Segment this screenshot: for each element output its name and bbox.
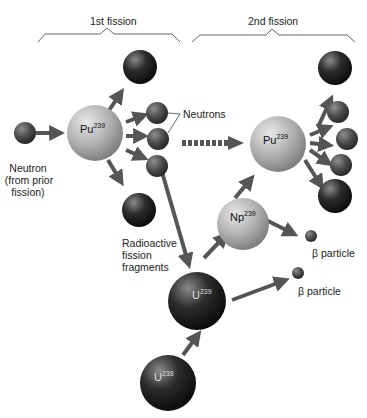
beta-particle-label-2: β particle — [298, 285, 341, 297]
label-line: Radioactive — [122, 237, 177, 249]
u239-symbol: U239 — [192, 288, 212, 301]
np239-symbol: Np239 — [230, 210, 256, 223]
element: Pu — [263, 134, 276, 146]
neutron-2-2 — [336, 128, 358, 150]
label-line: Neutron — [5, 162, 51, 174]
neutron-incoming — [14, 122, 36, 144]
neutrons-label: Neutrons — [183, 108, 226, 120]
pu239-symbol-1: Pu239 — [80, 122, 105, 135]
label-line: fragments — [122, 261, 177, 273]
first-fission-header: 1st fission — [90, 15, 137, 27]
neutron-incoming-label: Neutron (from prior fission) — [5, 162, 51, 198]
pu239-symbol-2: Pu239 — [263, 133, 288, 146]
fission-fragments-label: Radioactive fission fragments — [122, 237, 177, 273]
element: U — [154, 371, 162, 383]
neutrons-leader — [168, 113, 180, 133]
second-fission-header: 2nd fission — [248, 15, 298, 27]
bracket-1st — [38, 28, 180, 42]
bracket-2nd — [192, 29, 355, 42]
u238-symbol: U238 — [154, 370, 174, 383]
fission-fragment-bottom — [122, 193, 156, 227]
element: U — [192, 289, 200, 301]
beta-particle-2 — [292, 267, 304, 279]
mass-number: 238 — [162, 370, 174, 377]
mass-number: 239 — [93, 122, 105, 129]
beta-particle-1 — [305, 230, 317, 242]
fission-fragment-bottom-2 — [318, 179, 352, 213]
neutron-1 — [146, 102, 168, 124]
beta-particle-label-1: β particle — [312, 247, 355, 259]
u238-nucleus — [140, 355, 196, 411]
fission-fragment-top — [123, 50, 157, 84]
label-line: fission — [122, 249, 177, 261]
label-line: fission) — [5, 186, 51, 198]
mass-number: 239 — [244, 210, 256, 217]
mass-number: 239 — [200, 288, 212, 295]
neutron-3 — [146, 155, 168, 177]
mass-number: 239 — [276, 133, 288, 140]
fission-diagram — [0, 0, 367, 418]
u239-nucleus — [168, 272, 226, 330]
neutron-2-1 — [327, 101, 349, 123]
fission-fragment-top-2 — [318, 51, 352, 85]
np239-nucleus — [217, 198, 269, 250]
label-line: (from prior — [1, 174, 57, 186]
neutron-2-3 — [330, 154, 352, 176]
element: Pu — [80, 123, 93, 135]
neutron-2 — [147, 128, 169, 150]
element: Np — [230, 211, 244, 223]
